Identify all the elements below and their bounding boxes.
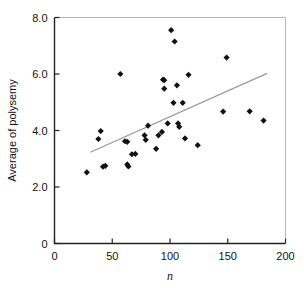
data-point-marker [132, 151, 138, 157]
data-point-marker [247, 108, 253, 114]
data-point-marker [153, 146, 159, 152]
data-point-marker [161, 86, 167, 92]
data-point-marker [174, 82, 180, 88]
scatter-plot-figure: 02.04.06.08.0050100150200Average of poly… [0, 0, 304, 291]
data-point-marker [141, 132, 147, 138]
data-point-marker [98, 128, 104, 134]
y-tick-label: 4.0 [32, 125, 47, 137]
data-point-marker [84, 169, 90, 175]
x-tick-label: 100 [161, 250, 179, 262]
data-point-marker [223, 55, 229, 61]
x-axis-title: n [167, 269, 173, 283]
data-point-marker [117, 71, 123, 77]
data-point-marker [260, 118, 266, 124]
x-axis: 050100150200 [51, 239, 294, 262]
y-tick-label: 8.0 [32, 12, 47, 24]
y-tick-label: 0 [41, 238, 47, 250]
data-point-marker [220, 108, 226, 114]
y-axis: 02.04.06.08.0 [32, 12, 59, 250]
y-tick-label: 2.0 [32, 181, 47, 193]
plot-frame [55, 18, 286, 244]
data-point-marker [180, 100, 186, 106]
data-point-marker [195, 142, 201, 148]
data-point-marker [165, 120, 171, 126]
x-tick-label: 200 [276, 250, 294, 262]
data-point-marker [170, 100, 176, 106]
data-point-marker [168, 27, 174, 33]
x-tick-label: 150 [219, 250, 237, 262]
data-point-marker [182, 135, 188, 141]
data-point-marker [95, 136, 101, 142]
x-tick-label: 0 [51, 250, 57, 262]
chart-canvas: 02.04.06.08.0050100150200Average of poly… [0, 0, 304, 291]
axis-spine [55, 18, 286, 244]
x-tick-label: 50 [106, 250, 118, 262]
y-tick-label: 6.0 [32, 68, 47, 80]
data-point-marker [172, 38, 178, 44]
data-point-marker [143, 137, 149, 143]
data-points [84, 27, 267, 175]
data-point-marker [185, 72, 191, 78]
y-axis-title: Average of polysemy [6, 79, 18, 182]
